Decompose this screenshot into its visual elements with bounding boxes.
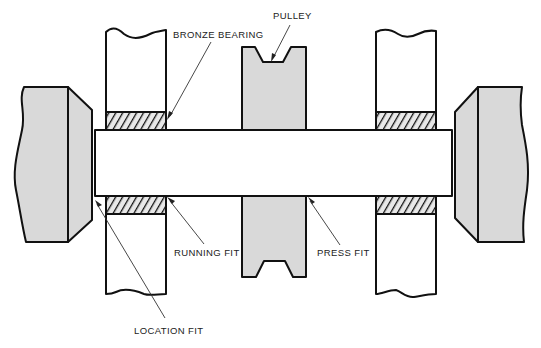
- left-chuck: [15, 87, 92, 242]
- shaft: [95, 130, 452, 196]
- right-chuck: [455, 87, 528, 242]
- label-pulley: PULLEY: [273, 10, 312, 21]
- right-bearing-top-bronze: [376, 112, 436, 130]
- shaft-fits-diagram: BRONZE BEARING PULLEY RUNNING FIT PRESS …: [0, 0, 541, 348]
- left-bearing-bottom-bronze: [106, 196, 166, 214]
- right-bearing-bottom-bronze: [376, 196, 436, 214]
- label-location-fit: LOCATION FIT: [134, 325, 204, 336]
- label-press-fit: PRESS FIT: [317, 247, 370, 258]
- left-bearing-top-bronze: [106, 112, 166, 130]
- label-bronze-bearing: BRONZE BEARING: [173, 29, 264, 40]
- label-running-fit: RUNNING FIT: [174, 247, 240, 258]
